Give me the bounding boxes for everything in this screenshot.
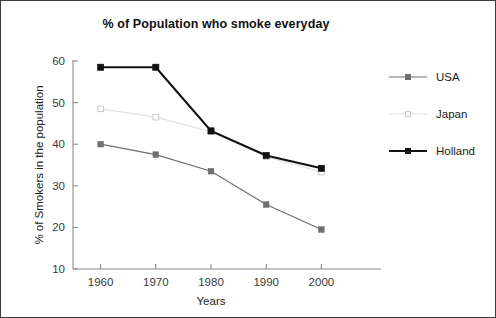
- series-japan: [98, 106, 324, 175]
- legend-label: Japan: [427, 108, 467, 120]
- data-point-marker: [98, 106, 104, 112]
- legend-label: Holland: [427, 145, 475, 157]
- data-point-marker: [153, 152, 159, 158]
- y-tick-label: 20: [52, 221, 65, 233]
- x-tick-label: 2000: [309, 276, 335, 288]
- legend-label: USA: [427, 71, 460, 83]
- data-point-marker: [98, 64, 104, 70]
- legend-swatch-usa: [389, 71, 427, 83]
- legend-swatch-holland: [389, 145, 427, 157]
- legend-item-japan[interactable]: Japan: [389, 95, 493, 132]
- x-axis-tick-labels: 19601970198019902000: [88, 276, 334, 288]
- data-point-marker: [319, 227, 325, 233]
- y-tick-label: 10: [52, 263, 65, 275]
- data-point-marker: [153, 64, 159, 70]
- legend-marker-icon: [405, 111, 411, 117]
- y-tick-label: 60: [52, 55, 65, 67]
- y-tick-label: 30: [52, 180, 65, 192]
- series-holland: [98, 64, 325, 171]
- chart-tick-marks: [73, 61, 321, 269]
- x-tick-label: 1960: [88, 276, 114, 288]
- legend-marker-icon: [405, 74, 411, 80]
- chart-axes: [73, 60, 381, 269]
- data-point-marker: [153, 114, 159, 120]
- y-axis-tick-labels: 102030405060: [52, 55, 65, 275]
- data-point-marker: [208, 168, 214, 174]
- y-tick-label: 50: [52, 97, 65, 109]
- legend-marker-icon: [405, 148, 411, 154]
- legend-item-holland[interactable]: Holland: [389, 132, 493, 169]
- data-point-marker: [318, 165, 324, 171]
- y-axis-title: % of Smokers in the population: [33, 85, 45, 244]
- x-axis-title: Years: [197, 295, 226, 307]
- data-point-marker: [263, 202, 269, 208]
- chart-legend: USAJapanHolland: [389, 58, 493, 169]
- chart-series-lines: [98, 64, 325, 232]
- data-point-marker: [98, 141, 104, 147]
- series-usa: [98, 141, 324, 232]
- legend-item-usa[interactable]: USA: [389, 58, 493, 95]
- data-point-marker: [263, 152, 269, 158]
- legend-swatch-japan: [389, 108, 427, 120]
- x-tick-label: 1990: [253, 276, 279, 288]
- data-point-marker: [208, 128, 214, 134]
- y-tick-label: 40: [52, 138, 65, 150]
- chart-screenshot: % of Population who smoke everyday 10203…: [0, 0, 496, 318]
- x-tick-label: 1970: [143, 276, 169, 288]
- x-tick-label: 1980: [198, 276, 224, 288]
